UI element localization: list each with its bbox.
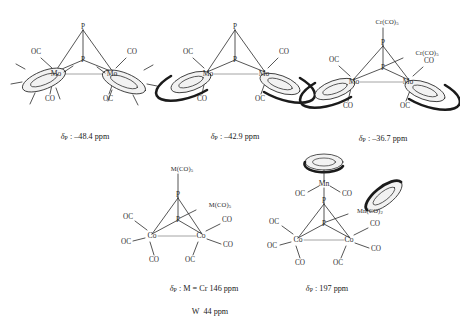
adduct-side-subscript: 5 xyxy=(436,52,438,57)
ligand-label-oc-bottom-right: OC xyxy=(185,257,195,264)
atom-label-p-apex: P xyxy=(381,40,385,47)
ligand-label-co-right: CO xyxy=(127,49,137,56)
caption-structure-1: δP : –48.4 ppm xyxy=(57,120,110,143)
structure-1: P P Mo Mo OC CO CO OC xyxy=(8,8,158,118)
adduct-side-subscript: 2 xyxy=(380,210,382,215)
caption-structure-4: δP : M = Cr 146 ppm W 44 ppm xyxy=(166,272,239,320)
ligand-label-co-upper-right: CO xyxy=(222,217,232,224)
ligand-label-co-bottom-left: CO xyxy=(149,257,159,264)
ligand-label-oc-left: OC xyxy=(31,49,41,56)
adduct-label-cr-co-5-top: Cr(CO)5 xyxy=(375,19,398,27)
caption-value: : –42.9 ppm xyxy=(218,132,259,141)
atom-label-mo-left: Mo xyxy=(349,78,360,86)
adduct-label-m-co-5-top: M(CO)5 xyxy=(171,166,193,174)
atom-label-p-apex: P xyxy=(176,192,180,199)
atom-label-mo-right: Mo xyxy=(403,78,414,86)
atom-label-p-apex: P xyxy=(233,24,237,31)
adduct-top-text: M(CO) xyxy=(171,165,191,172)
ligand-label-co-lower-right: CO xyxy=(371,246,381,253)
adduct-side-text: Cr(CO) xyxy=(415,49,436,56)
ligand-label-co-bottom-left: CO xyxy=(197,96,207,103)
atom-label-mo-left: Mo xyxy=(51,70,62,78)
atom-label-mo-right: Mo xyxy=(259,70,270,78)
atom-label-p-lower: P xyxy=(322,221,326,228)
caption-value: : –48.4 ppm xyxy=(68,132,109,141)
ligand-label-oc-bottom-right: OC xyxy=(400,103,410,110)
ligand-label-co-mn-right: CO xyxy=(342,191,352,198)
adduct-label-m-co-5-side: M(CO)5 xyxy=(209,202,231,210)
adduct-side-text: Mn(CO) xyxy=(357,207,380,214)
caption-structure-3: δP : –36.7 ppm xyxy=(355,122,408,145)
ligand-label-oc-bottom-right: OC xyxy=(255,96,265,103)
ligand-label-oc-lower-left: OC xyxy=(267,243,277,250)
caption-structure-2: δP : –42.9 ppm xyxy=(207,120,260,143)
atom-label-co-left: Co xyxy=(293,236,302,244)
atom-label-p-lower: P xyxy=(233,57,237,64)
ligand-label-co-bottom-left: CO xyxy=(343,103,353,110)
structure-4: M(CO)5 P P M(CO)5 Co Co OC OC CO CO CO O… xyxy=(130,158,290,268)
ligand-label-oc-upper-left: OC xyxy=(123,214,133,221)
atom-label-mo-left: Mo xyxy=(203,70,214,78)
ligand-label-oc-left: OC xyxy=(329,57,339,64)
atom-label-p-lower: P xyxy=(81,57,85,64)
ligand-label-oc-bottom-right: OC xyxy=(103,96,113,103)
structure-2: P P Mo Mo OC CO CO OC xyxy=(163,8,303,118)
ligand-label-co-right: CO xyxy=(279,49,289,56)
atom-label-co-right: Co xyxy=(196,232,205,240)
ligand-label-co-right: CO xyxy=(424,58,434,65)
caption-line-2: W 44 ppm xyxy=(166,306,239,317)
ligand-label-co-upper-right: CO xyxy=(370,221,380,228)
ligand-label-oc-mn-left: OC xyxy=(295,191,305,198)
ligand-label-oc-left: OC xyxy=(183,49,193,56)
structure-3: Cr(CO)5 P P Cr(CO)5 Mo Mo OC CO CO OC xyxy=(305,4,457,118)
atom-label-mn-top: Mn xyxy=(319,180,330,188)
atom-label-co-right: Co xyxy=(344,236,353,244)
adduct-top-subscript: 5 xyxy=(396,21,398,26)
caption-structure-5: δP : 197 ppm xyxy=(302,272,348,295)
atom-label-co-left: Co xyxy=(147,232,156,240)
caption-line-1: : M = Cr 146 ppm xyxy=(177,284,238,293)
adduct-side-subscript: 5 xyxy=(229,204,231,209)
atom-label-p-apex: P xyxy=(81,24,85,31)
ligand-label-oc-upper-left: OC xyxy=(269,219,279,226)
ligand-label-oc-bottom-right: OC xyxy=(333,260,343,267)
caption-value: : 197 ppm xyxy=(313,284,348,293)
adduct-top-subscript: 5 xyxy=(191,168,193,173)
adduct-top-text: Cr(CO) xyxy=(375,18,396,25)
ligand-label-co-lower-right: CO xyxy=(223,242,233,249)
atom-label-p-apex: P xyxy=(322,198,326,205)
atom-label-mo-right: Mo xyxy=(107,70,118,78)
structure-4-drawing xyxy=(130,158,290,268)
atom-label-p-lower: P xyxy=(176,217,180,224)
ligand-label-co-bottom-left: CO xyxy=(295,260,305,267)
adduct-label-mn-co-2-side: Mn(CO)2 xyxy=(357,208,383,216)
atom-label-p-lower: P xyxy=(381,65,385,72)
caption-value: : –36.7 ppm xyxy=(366,134,407,143)
ligand-label-co-bottom-left: CO xyxy=(45,96,55,103)
ligand-label-oc-lower-left: OC xyxy=(121,239,131,246)
adduct-side-text: M(CO) xyxy=(209,201,229,208)
structure-5: Mn OC CO P P Mn(CO)2 Co Co OC OC CO CO C… xyxy=(280,152,440,270)
